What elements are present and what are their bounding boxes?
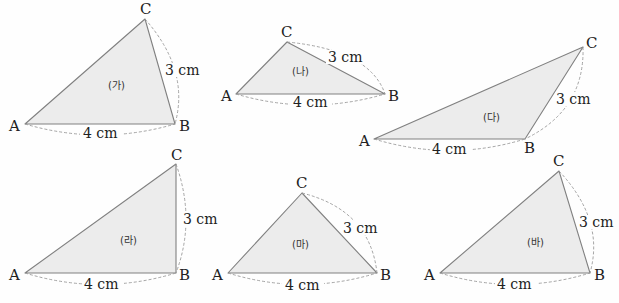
side-ab-label: 4 cm bbox=[83, 125, 117, 141]
triangle-ra: A B C 4 cm 3 cm (라) bbox=[8, 146, 218, 292]
vertex-b-label: B bbox=[388, 87, 399, 105]
vertex-c-label: C bbox=[296, 174, 307, 192]
triangle-diagram: A B C 4 cm 3 cm (가) A B C 4 cm 3 cm (나) … bbox=[0, 0, 619, 303]
triangle-name: (바) bbox=[527, 237, 544, 248]
vertex-a-label: A bbox=[220, 87, 232, 105]
vertex-b-label: B bbox=[594, 266, 605, 284]
vertex-b-label: B bbox=[179, 117, 190, 135]
vertex-a-label: A bbox=[358, 132, 370, 150]
vertex-b-label: B bbox=[524, 139, 535, 157]
vertex-c-label: C bbox=[281, 23, 292, 41]
side-bc-label: 3 cm bbox=[343, 220, 377, 236]
triangle-name: (라) bbox=[120, 235, 137, 246]
triangle-name: (다) bbox=[483, 112, 500, 123]
side-ab-label: 4 cm bbox=[497, 276, 531, 292]
side-bc-label: 3 cm bbox=[556, 91, 590, 107]
vertex-a-label: A bbox=[8, 117, 20, 135]
triangle-na: A B C 4 cm 3 cm (나) bbox=[220, 23, 399, 110]
vertex-a-label: A bbox=[211, 266, 223, 284]
vertex-c-label: C bbox=[140, 0, 151, 18]
side-ab-label: 4 cm bbox=[285, 277, 319, 293]
triangle-ma: A B C 4 cm 3 cm (마) bbox=[211, 174, 391, 293]
side-bc-label: 3 cm bbox=[579, 214, 613, 230]
side-ab-label: 4 cm bbox=[84, 276, 118, 292]
side-ab-label: 4 cm bbox=[432, 141, 466, 157]
side-bc-label: 3 cm bbox=[328, 49, 362, 65]
vertex-b-label: B bbox=[380, 266, 391, 284]
vertex-c-label: C bbox=[171, 146, 182, 164]
triangle-name: (가) bbox=[108, 80, 125, 91]
vertex-b-label: B bbox=[179, 266, 190, 284]
triangle-name: (마) bbox=[292, 239, 309, 250]
vertex-a-label: A bbox=[423, 266, 435, 284]
triangle-ga: A B C 4 cm 3 cm (가) bbox=[8, 0, 199, 141]
vertex-c-label: C bbox=[586, 34, 597, 52]
side-bc-label: 3 cm bbox=[183, 211, 217, 227]
side-bc-label: 3 cm bbox=[165, 62, 199, 78]
triangle-ba: A B C 4 cm 3 cm (바) bbox=[423, 152, 618, 292]
side-ab-label: 4 cm bbox=[293, 94, 327, 110]
triangle-name: (나) bbox=[292, 66, 309, 77]
vertex-a-label: A bbox=[8, 266, 20, 284]
vertex-c-label: C bbox=[553, 152, 564, 170]
